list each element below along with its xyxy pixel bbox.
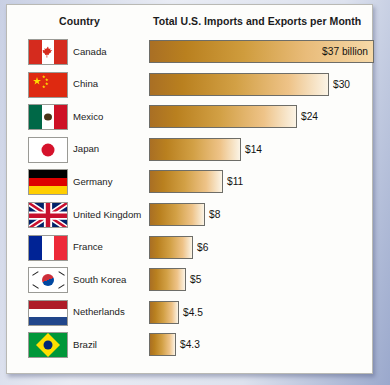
chart-title: Total U.S. Imports and Exports per Month — [153, 15, 361, 27]
bar-track: $14 — [149, 138, 372, 162]
country-label: Netherlands — [73, 299, 149, 327]
bar — [149, 203, 205, 226]
chart-header: Country Total U.S. Imports and Exports p… — [7, 12, 372, 34]
bar-track: $30 — [149, 73, 372, 97]
flag-icon-canada — [28, 39, 68, 65]
bar — [149, 138, 241, 161]
bar-value-label: $5 — [190, 268, 201, 291]
chart-row: France$6 — [7, 234, 372, 267]
country-label: Canada — [73, 38, 149, 66]
country-label: Brazil — [73, 331, 149, 359]
chart-card: Country Total U.S. Imports and Exports p… — [6, 4, 373, 374]
chart-row: South Korea$5 — [7, 266, 372, 299]
bar-track: $4.3 — [149, 333, 372, 357]
bar-track: $6 — [149, 236, 372, 260]
flag-icon-germany — [28, 169, 68, 195]
flag-icon-united-kingdom — [28, 202, 68, 228]
bar-value-label: $11 — [227, 170, 243, 193]
flag-icon-mexico — [28, 104, 68, 130]
bar-track: $8 — [149, 203, 372, 227]
bar-value-label: $8 — [209, 203, 220, 226]
chart-row: Brazil$4.3 — [7, 331, 372, 364]
bar — [149, 170, 223, 193]
bar-track: $4.5 — [149, 301, 372, 325]
flag-icon-brazil — [28, 332, 68, 358]
bar — [149, 105, 297, 128]
country-label: Mexico — [73, 103, 149, 131]
column-header-country: Country — [59, 15, 100, 27]
bar-value-label: $30 — [333, 73, 350, 96]
chart-row: Netherlands$4.5 — [7, 299, 372, 332]
chart-row: Germany$11 — [7, 168, 372, 201]
chart-row: United Kingdom$8 — [7, 201, 372, 234]
chart-rows: Canada$37 billionChina$30Mexico$24Japan$… — [7, 38, 372, 364]
chart-row: China$30 — [7, 71, 372, 104]
bar-track: $37 billion — [149, 40, 372, 64]
bar-value-label: $37 billion — [149, 40, 368, 63]
bar-track: $24 — [149, 105, 372, 129]
chart-row: Canada$37 billion — [7, 38, 372, 71]
bar — [149, 236, 193, 259]
country-label: China — [73, 71, 149, 99]
country-label: South Korea — [73, 266, 149, 294]
country-label: France — [73, 234, 149, 262]
flag-icon-japan — [28, 137, 68, 163]
bar-track: $11 — [149, 170, 372, 194]
flag-icon-netherlands — [28, 300, 68, 326]
country-label: Germany — [73, 168, 149, 196]
bar — [149, 301, 179, 324]
flag-icon-china — [28, 72, 68, 98]
country-label: United Kingdom — [73, 201, 149, 229]
bar-value-label: $4.3 — [180, 333, 200, 356]
bar — [149, 268, 186, 291]
bar-track: $5 — [149, 268, 372, 292]
bar — [149, 333, 176, 356]
bar — [149, 73, 329, 96]
bar-value-label: $14 — [245, 138, 262, 161]
flag-icon-france — [28, 235, 68, 261]
chart-row: Japan$14 — [7, 136, 372, 169]
bar-value-label: $24 — [301, 105, 318, 128]
flag-icon-south-korea — [28, 267, 68, 293]
country-label: Japan — [73, 136, 149, 164]
bar-value-label: $6 — [197, 236, 208, 259]
bar-value-label: $4.5 — [183, 301, 203, 324]
chart-row: Mexico$24 — [7, 103, 372, 136]
